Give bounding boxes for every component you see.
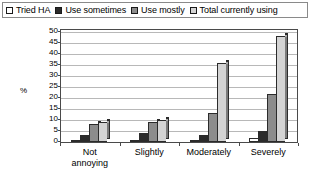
bar [80, 132, 89, 142]
bar-top [226, 61, 229, 64]
legend-label-tried-ha: Tried HA [16, 5, 50, 15]
bar [208, 110, 217, 142]
bar-face [276, 36, 285, 142]
bar-group [121, 30, 181, 142]
bar-face [89, 124, 98, 142]
x-axis-tickmark [120, 143, 121, 146]
bar-face [139, 133, 148, 142]
bar-face [217, 63, 226, 142]
bar [157, 117, 166, 142]
legend-label-use-sometimes: Use sometimes [65, 5, 126, 15]
bar-face [190, 140, 199, 142]
bar [258, 128, 267, 142]
legend-item-tried-ha: Tried HA [6, 5, 50, 15]
legend-label-use-mostly: Use mostly [141, 5, 185, 15]
y-axis-tick-label: 5 [36, 126, 58, 134]
bar [130, 137, 139, 142]
x-axis-tickmark [298, 143, 299, 146]
plot-area [60, 29, 298, 143]
x-axis-tickmark [179, 143, 180, 146]
bar-face [157, 120, 166, 142]
chart-container: Tried HA Use sometimes Use mostly Total … [0, 0, 310, 176]
bar-face [130, 140, 139, 142]
bar [267, 91, 276, 142]
chart-legend: Tried HA Use sometimes Use mostly Total … [2, 2, 308, 18]
x-axis-tickmark [239, 143, 240, 146]
legend-item-total-currently-using: Total currently using [190, 5, 278, 15]
y-axis-tick-label: 25 [36, 82, 58, 90]
bar-face [80, 135, 89, 142]
bar-face [258, 131, 267, 142]
y-axis-tick-label: 15 [36, 104, 58, 112]
bar-side [226, 60, 229, 139]
bar [89, 121, 98, 142]
bar [249, 135, 258, 142]
y-axis-tick-label: 35 [36, 60, 58, 68]
x-axis-tickmark [60, 143, 61, 146]
bar-face [199, 135, 208, 142]
bar [98, 119, 107, 142]
bar-face [267, 94, 276, 142]
legend-item-use-mostly: Use mostly [131, 5, 185, 15]
y-axis-tick-label: 40 [36, 49, 58, 57]
bar [276, 33, 285, 142]
legend-swatch-use-mostly [131, 7, 138, 14]
y-axis-ticks: 50454035302520151050 [36, 24, 58, 148]
y-axis-tick-label: 45 [36, 38, 58, 46]
legend-swatch-total-currently-using [190, 7, 197, 14]
bar-group [180, 30, 240, 142]
legend-swatch-use-sometimes [55, 7, 62, 14]
bar-top [166, 118, 169, 121]
bar-face [98, 122, 107, 142]
y-axis-tick-label: 50 [36, 27, 58, 35]
bar-face [249, 138, 258, 142]
y-axis-tick-label: 30 [36, 71, 58, 79]
bar [139, 130, 148, 142]
y-axis-tick-label: 10 [36, 115, 58, 123]
bar [190, 137, 199, 142]
bar [148, 119, 157, 142]
bar [217, 60, 226, 142]
bar-face [71, 140, 80, 142]
legend-label-total-currently-using: Total currently using [200, 5, 278, 15]
legend-item-use-sometimes: Use sometimes [55, 5, 126, 15]
bar-top [285, 34, 288, 37]
bar-side [285, 33, 288, 139]
bar-face [148, 122, 157, 142]
bar-group [61, 30, 121, 142]
bar [71, 137, 80, 142]
bar-top [107, 120, 110, 123]
y-axis-title: % [20, 86, 27, 95]
y-axis-tick-label: 0 [36, 137, 58, 145]
bar-group [240, 30, 300, 142]
bar-face [208, 113, 217, 142]
x-axis-label: Severely [229, 147, 309, 158]
bar [199, 132, 208, 142]
y-axis-tick-label: 20 [36, 93, 58, 101]
legend-swatch-tried-ha [6, 7, 13, 14]
